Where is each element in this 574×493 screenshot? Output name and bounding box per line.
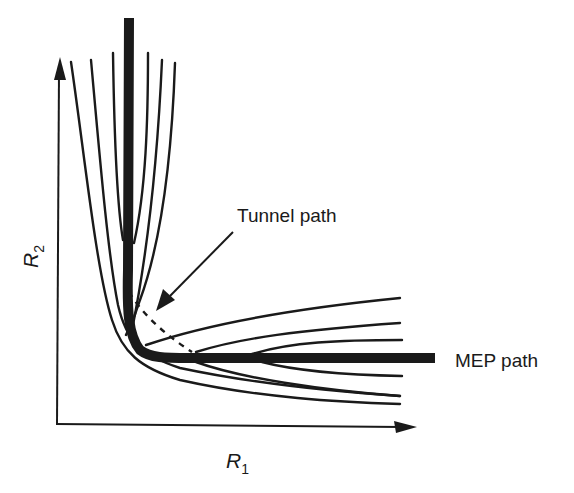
tunnel-path-label: Tunnel path	[237, 205, 337, 226]
x-axis-label-subscript: 1	[241, 461, 249, 477]
mep-path-label: MEP path	[455, 350, 538, 371]
x-axis-label-main: R	[226, 449, 241, 472]
y-axis-label-main: R	[19, 253, 42, 268]
y-axis-label-subscript: 2	[31, 245, 47, 253]
background	[0, 0, 574, 493]
pes-diagram: Tunnel path MEP path R1 R2	[0, 0, 574, 493]
